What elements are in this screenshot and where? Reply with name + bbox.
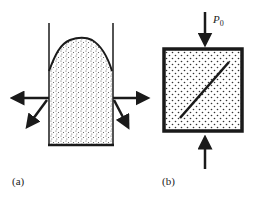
figure-canvas bbox=[0, 0, 257, 200]
load-symbol: P bbox=[213, 13, 220, 25]
load-subscript: 0 bbox=[220, 19, 224, 28]
panel-a bbox=[17, 23, 143, 145]
load-label: P0 bbox=[213, 13, 224, 28]
panel-a-label: (a) bbox=[12, 175, 24, 187]
granular-body-a bbox=[49, 38, 112, 145]
panel-b-label: (b) bbox=[162, 175, 175, 187]
panel-b bbox=[164, 12, 242, 169]
arrow-left-diagonal-icon bbox=[30, 100, 47, 123]
arrow-right-diagonal-icon bbox=[114, 100, 126, 123]
